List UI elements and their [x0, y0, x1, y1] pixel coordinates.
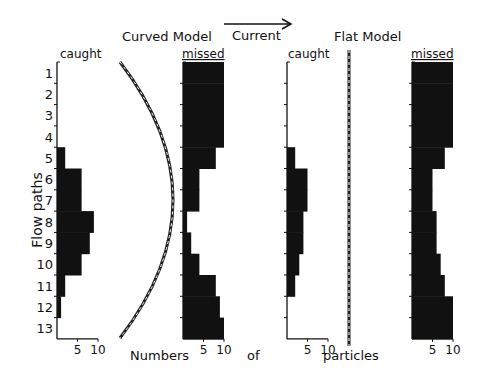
curved-caught-label: caught [60, 47, 102, 61]
bar [287, 232, 303, 254]
bar [183, 62, 224, 84]
row-label: 7 [45, 193, 53, 208]
bar [412, 254, 441, 276]
bar [412, 275, 445, 297]
x-axis-label-of: of [247, 348, 260, 363]
row-label: 2 [45, 87, 53, 102]
x-tick-label: 10 [216, 343, 231, 357]
bar [183, 126, 224, 148]
bar [183, 105, 224, 127]
bar [412, 83, 453, 105]
row-label: 6 [45, 172, 53, 187]
row-label: 9 [45, 236, 53, 251]
row-label: 8 [45, 215, 53, 230]
x-tick-label: 5 [304, 343, 312, 357]
bar [287, 190, 308, 212]
bar [287, 275, 295, 297]
bar [412, 62, 453, 84]
bar [412, 147, 445, 169]
row-label: 4 [45, 130, 53, 145]
bar [412, 296, 453, 318]
flat-caught-label: caught [288, 47, 330, 61]
bar [183, 147, 216, 169]
x-axis-label-particles: particles [323, 348, 379, 363]
row-label: 13 [36, 321, 53, 336]
bar [57, 254, 82, 276]
row-label: 3 [45, 108, 53, 123]
x-axis-label-numbers: Numbers [130, 348, 189, 363]
bar [183, 169, 199, 191]
bar [183, 190, 199, 212]
row-label: 11 [36, 279, 53, 294]
bar [412, 190, 433, 212]
curved-missed-panel: 510 [180, 62, 232, 357]
row-label: 1 [45, 66, 53, 81]
bar [412, 232, 437, 254]
bar [287, 211, 303, 233]
flat-model-title: Flat Model [334, 29, 401, 44]
bar [57, 211, 94, 233]
flat-missed-label: missed [411, 47, 454, 61]
bar [287, 169, 308, 191]
flow-path-figure: Current Curved Model Flat Model Flow pat… [0, 0, 482, 380]
row-label: 5 [45, 151, 53, 166]
bar [57, 190, 82, 212]
bar [287, 147, 295, 169]
bar [57, 147, 65, 169]
bar [412, 211, 437, 233]
bar [183, 296, 220, 318]
flat-caught-panel: 510 [284, 62, 336, 357]
curved-missed-label: missed [182, 47, 225, 61]
bar [183, 254, 199, 276]
x-tick-label: 5 [200, 343, 208, 357]
bar [183, 232, 191, 254]
current-label: Current [232, 28, 281, 43]
x-tick-label: 10 [90, 343, 105, 357]
bar [183, 318, 224, 340]
x-tick-label: 5 [74, 343, 82, 357]
bar [412, 105, 453, 127]
bar [57, 275, 65, 297]
row-label: 12 [36, 300, 53, 315]
row-label: 10 [36, 257, 53, 272]
bar [412, 126, 453, 148]
bar [57, 169, 82, 191]
bar [183, 83, 224, 105]
bar [412, 318, 453, 340]
x-tick-label: 10 [445, 343, 460, 357]
y-axis-label: Flow paths [29, 172, 45, 248]
x-tick-label: 5 [429, 343, 437, 357]
bar [412, 169, 433, 191]
curved-caught-panel: 510 [54, 62, 106, 357]
flat-missed-panel: 510 [409, 62, 461, 357]
curved-model-shape-icon [120, 62, 173, 338]
curved-model-title: Curved Model [122, 29, 212, 44]
bar [57, 232, 90, 254]
bar [183, 275, 216, 297]
bar [287, 254, 299, 276]
